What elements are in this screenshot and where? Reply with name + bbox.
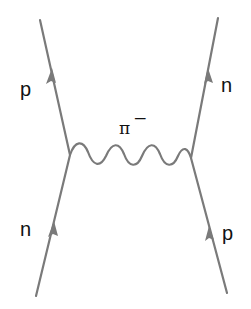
- arrow-icon: [204, 68, 213, 84]
- feynman-diagram: p n n p π −: [0, 0, 251, 309]
- label-bottom-left: n: [20, 218, 31, 240]
- label-pion-charge: −: [133, 108, 147, 128]
- pion-propagator: [70, 143, 191, 164]
- outgoing-proton-line: [40, 20, 70, 155]
- label-top-left: p: [20, 78, 31, 100]
- label-bottom-right: p: [222, 222, 233, 244]
- arrow-icon: [205, 226, 214, 241]
- outgoing-neutron-line: [191, 18, 218, 158]
- label-top-right: n: [221, 74, 232, 96]
- label-pion: π: [119, 118, 130, 138]
